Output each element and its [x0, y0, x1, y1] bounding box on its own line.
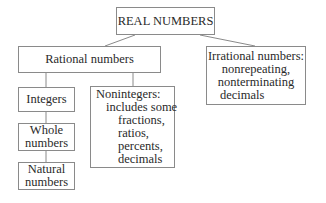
- nonintegers-box: Nonintegers: includes some fractions, ra…: [90, 86, 175, 168]
- irrational-line-2: nonrepeating,: [222, 63, 290, 76]
- connector-real-irrational: [200, 35, 255, 46]
- real-numbers-box: REAL NUMBERS: [116, 7, 215, 35]
- irrational-line-3: nonterminating: [218, 76, 294, 89]
- integers-label: Integers: [26, 93, 66, 106]
- rational-numbers-label: Rational numbers: [45, 53, 134, 66]
- nonintegers-line-6: decimals: [118, 153, 174, 166]
- whole-numbers-box: Whole numbers: [18, 123, 75, 151]
- real-numbers-label: REAL NUMBERS: [118, 15, 214, 28]
- connector-real-rational: [105, 35, 135, 46]
- irrational-line-1: Irrational numbers:: [208, 50, 304, 63]
- natural-numbers-box: Natural numbers: [18, 162, 75, 190]
- irrational-numbers-box: Irrational numbers: nonrepeating, nonter…: [206, 46, 306, 105]
- whole-line-2: numbers: [25, 137, 68, 150]
- irrational-line-4: decimals: [220, 89, 264, 102]
- rational-numbers-box: Rational numbers: [18, 46, 161, 73]
- integers-box: Integers: [18, 87, 75, 112]
- natural-line-2: numbers: [25, 176, 68, 189]
